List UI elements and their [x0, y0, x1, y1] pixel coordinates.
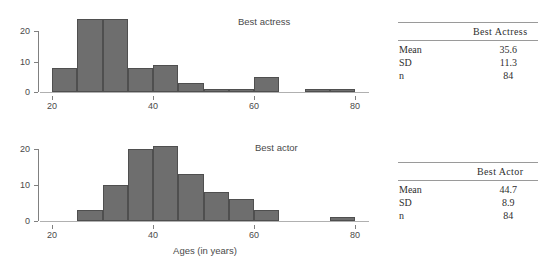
table-row-label: SD	[398, 196, 479, 209]
y-axis-tick-label: 10	[4, 57, 30, 67]
y-axis-tick-label: 10	[4, 180, 30, 190]
table-row-value: 84	[479, 69, 538, 82]
y-axis-tick	[34, 149, 38, 150]
histogram-bar	[77, 19, 102, 92]
y-axis-tick	[34, 221, 38, 222]
table-rule-mid	[398, 180, 538, 181]
x-axis-title: Ages (in years)	[173, 245, 237, 256]
histogram-bar	[229, 199, 254, 221]
summary-table-best-actor: Best Actor Mean 44.7 SD 8.9 n 84	[398, 162, 538, 222]
table-rule-top	[398, 22, 538, 23]
y-axis-line	[38, 31, 39, 92]
table-row-label: Mean	[398, 43, 479, 56]
table-row: SD 11.3	[398, 56, 538, 69]
x-axis-tick	[52, 96, 53, 100]
histogram-bar	[77, 210, 102, 221]
table-row-value: 11.3	[479, 56, 538, 69]
series-label-best-actor: Best actor	[255, 142, 298, 153]
histogram-bar	[153, 146, 178, 221]
table-row-label: n	[398, 69, 479, 82]
y-axis-tick	[34, 92, 38, 93]
series-label-best-actress: Best actress	[238, 16, 290, 27]
table-rule-top	[398, 162, 538, 163]
histogram-bar	[204, 89, 229, 92]
plot-area-best-actor: Best actor Ages (in years) 0102020406080	[0, 128, 390, 268]
table-row-value: 44.7	[479, 183, 538, 196]
y-axis-tick-label: 0	[4, 216, 30, 226]
table-row-label: n	[398, 209, 479, 222]
x-axis-tick	[153, 225, 154, 229]
histogram-bar	[330, 89, 355, 92]
histogram-bar	[178, 174, 203, 221]
table-rule-mid	[398, 40, 538, 41]
plot-area-best-actress: Best actress 0102020406080	[0, 0, 390, 118]
histogram-bar	[204, 192, 229, 221]
x-axis-tick	[254, 225, 255, 229]
x-axis-tick	[355, 225, 356, 229]
histogram-bar	[52, 68, 77, 92]
x-axis-tick	[254, 96, 255, 100]
x-axis-tick-label: 80	[350, 230, 360, 240]
y-axis-tick-label: 0	[4, 87, 30, 97]
y-axis-tick-label: 20	[4, 144, 30, 154]
x-axis-tick-label: 20	[47, 230, 57, 240]
x-axis-tick-label: 20	[47, 101, 57, 111]
histogram-figure: Best actress 0102020406080 Best actor Ag…	[0, 0, 390, 268]
table-header-title: Best Actress	[462, 25, 538, 38]
y-axis-tick	[34, 31, 38, 32]
x-axis-tick	[153, 96, 154, 100]
histogram-bar	[178, 83, 203, 92]
histogram-bar	[254, 210, 279, 221]
histogram-best-actor: Best actor Ages (in years) 0102020406080	[0, 128, 390, 268]
histogram-bar	[128, 149, 153, 221]
table-row-value: 35.6	[479, 43, 538, 56]
histogram-bar	[128, 68, 153, 92]
histogram-bar	[103, 19, 128, 92]
x-axis-tick-label: 80	[350, 101, 360, 111]
x-axis-tick-label: 60	[249, 230, 259, 240]
table-row: Mean 35.6	[398, 43, 538, 56]
y-axis-tick	[34, 62, 38, 63]
x-axis-line	[40, 92, 369, 93]
summary-table-best-actress: Best Actress Mean 35.6 SD 11.3 n 84	[398, 22, 538, 82]
table-row-value: 84	[479, 209, 538, 222]
x-axis-tick	[355, 96, 356, 100]
table-header-title: Best Actor	[462, 165, 538, 178]
histogram-bar	[153, 65, 178, 92]
table-row: SD 8.9	[398, 196, 538, 209]
table-row: n 84	[398, 69, 538, 82]
x-axis-tick-label: 40	[148, 101, 158, 111]
table-row-label: SD	[398, 56, 479, 69]
histogram-bar	[254, 77, 279, 92]
histogram-best-actress: Best actress 0102020406080	[0, 0, 390, 118]
histogram-bar	[330, 217, 355, 221]
y-axis-tick-label: 20	[4, 26, 30, 36]
table-header-row: Best Actor	[398, 165, 538, 178]
y-axis-tick	[34, 185, 38, 186]
table-header-blank	[398, 165, 462, 178]
table-row: n 84	[398, 209, 538, 222]
table-row-value: 8.9	[479, 196, 538, 209]
table-header-blank	[398, 25, 462, 38]
table-row: Mean 44.7	[398, 183, 538, 196]
x-axis-line	[40, 221, 369, 222]
histogram-bar	[305, 89, 330, 92]
x-axis-tick-label: 60	[249, 101, 259, 111]
table-row-label: Mean	[398, 183, 479, 196]
table-header-row: Best Actress	[398, 25, 538, 38]
x-axis-tick-label: 40	[148, 230, 158, 240]
histogram-bar	[229, 89, 254, 92]
histogram-bar	[103, 185, 128, 221]
x-axis-tick	[52, 225, 53, 229]
y-axis-line	[38, 149, 39, 221]
